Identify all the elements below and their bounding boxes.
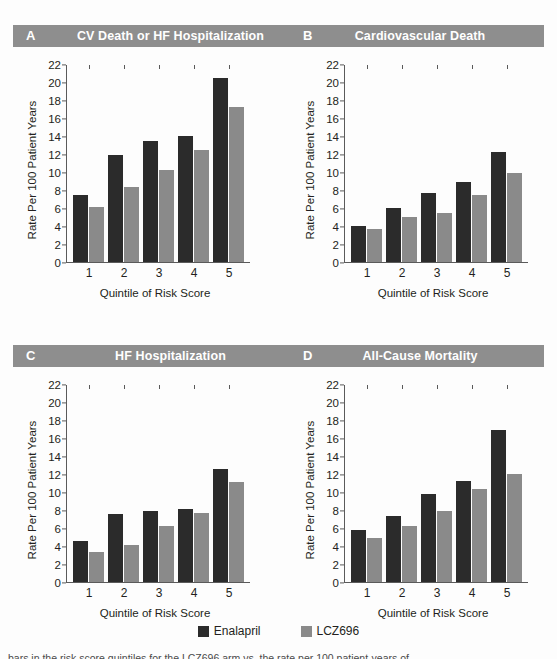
bar-group-d-q1: 1 — [351, 385, 383, 582]
x-tick-mark-d-q1 — [367, 385, 368, 389]
x-tick-mark-c-q1 — [89, 385, 90, 389]
bar-b-enalapril-q5 — [491, 152, 506, 262]
bar-d-lcz696-q5 — [507, 474, 522, 581]
chart-panel-c: Rate Per 100 Patient Years02468101214161… — [0, 375, 278, 645]
bar-d-lcz696-q4 — [472, 489, 487, 582]
plot-area-b: 024681012141618202212345 — [344, 65, 526, 263]
y-tick-mark-b-10 — [340, 172, 344, 173]
bar-a-lcz696-q2 — [124, 187, 139, 262]
x-tick-mark-b-q4 — [472, 65, 473, 69]
y-axis-label-d: Rate Per 100 Patient Years — [304, 265, 316, 415]
bar-b-lcz696-q1 — [367, 229, 382, 262]
y-tick-mark-b-8 — [340, 190, 344, 191]
bar-c-enalapril-q1 — [73, 541, 88, 581]
plot-area-a: 024681012141618202212345 — [66, 65, 248, 263]
y-tick-mark-b-22 — [340, 64, 344, 65]
y-tick-mark-a-20 — [62, 82, 66, 83]
bar-a-enalapril-q3 — [143, 141, 158, 262]
y-tick-mark-b-6 — [340, 208, 344, 209]
y-tick-mark-b-16 — [340, 118, 344, 119]
y-tick-mark-d-16 — [340, 438, 344, 439]
y-tick-mark-b-12 — [340, 154, 344, 155]
y-axis-label-a: Rate Per 100 Patient Years — [26, 0, 38, 95]
bar-d-lcz696-q1 — [367, 538, 382, 582]
x-tick-label-a-q1: 1 — [73, 262, 105, 280]
x-tick-label-a-q4: 4 — [178, 262, 210, 280]
x-tick-label-b-q2: 2 — [386, 262, 418, 280]
x-axis-label-a: Quintile of Risk Score — [50, 287, 260, 299]
x-tick-label-b-q1: 1 — [351, 262, 383, 280]
legend-swatch-icon-lcz696 — [301, 626, 312, 637]
y-tick-mark-d-6 — [340, 528, 344, 529]
x-axis-label-b: Quintile of Risk Score — [328, 287, 538, 299]
x-tick-label-d-q2: 2 — [386, 582, 418, 600]
x-tick-label-c-q2: 2 — [108, 582, 140, 600]
y-tick-mark-c-22 — [62, 384, 66, 385]
bar-group-a-q2: 2 — [108, 65, 140, 262]
legend-label-enalapril: Enalapril — [214, 624, 261, 638]
x-tick-mark-a-q1 — [89, 65, 90, 69]
y-tick-mark-a-4 — [62, 226, 66, 227]
legend-item-enalapril: Enalapril — [198, 624, 261, 638]
panel-header-bar-row1: A CV Death or HF Hospitalization B Cardi… — [13, 25, 544, 47]
x-tick-label-b-q3: 3 — [421, 262, 453, 280]
legend-swatch-icon-enalapril — [198, 626, 209, 637]
bar-group-c-q1: 1 — [73, 385, 105, 582]
y-tick-mark-c-6 — [62, 528, 66, 529]
bar-group-b-q4: 4 — [456, 65, 488, 262]
y-tick-mark-d-18 — [340, 420, 344, 421]
y-axis-label-c: Rate Per 100 Patient Years — [26, 265, 38, 415]
bar-group-b-q5: 5 — [491, 65, 523, 262]
y-tick-mark-a-0 — [62, 262, 66, 263]
bar-group-a-q5: 5 — [213, 65, 245, 262]
x-tick-mark-a-q5 — [229, 65, 230, 69]
y-tick-mark-c-12 — [62, 474, 66, 475]
x-tick-mark-b-q3 — [437, 65, 438, 69]
y-tick-mark-a-16 — [62, 118, 66, 119]
y-tick-mark-c-8 — [62, 510, 66, 511]
y-tick-mark-c-0 — [62, 582, 66, 583]
y-tick-mark-d-4 — [340, 546, 344, 547]
bar-d-enalapril-q2 — [386, 516, 401, 581]
y-tick-mark-c-4 — [62, 546, 66, 547]
bar-a-lcz696-q3 — [159, 170, 174, 262]
bar-group-d-q5: 5 — [491, 385, 523, 582]
x-tick-label-c-q4: 4 — [178, 582, 210, 600]
x-tick-mark-c-q5 — [229, 385, 230, 389]
y-axis-label-b: Rate Per 100 Patient Years — [304, 0, 316, 95]
bar-a-lcz696-q5 — [229, 107, 244, 262]
chart-panel-a: Rate Per 100 Patient Years02468101214161… — [0, 55, 278, 325]
y-tick-mark-d-0 — [340, 582, 344, 583]
legend-label-lcz696: LCZ696 — [317, 624, 360, 638]
x-tick-mark-b-q5 — [507, 65, 508, 69]
bar-c-lcz696-q5 — [229, 482, 244, 582]
bar-d-lcz696-q2 — [402, 526, 417, 581]
bar-d-lcz696-q3 — [437, 511, 452, 582]
bar-group-c-q3: 3 — [143, 385, 175, 582]
x-tick-mark-d-q3 — [437, 385, 438, 389]
y-tick-mark-c-2 — [62, 564, 66, 565]
bar-c-enalapril-q3 — [143, 511, 158, 582]
y-tick-mark-d-20 — [340, 402, 344, 403]
y-tick-mark-a-8 — [62, 190, 66, 191]
y-tick-mark-d-10 — [340, 492, 344, 493]
chart-panel-d: Rate Per 100 Patient Years02468101214161… — [278, 375, 556, 645]
x-axis-label-d: Quintile of Risk Score — [328, 607, 538, 619]
y-tick-mark-c-18 — [62, 420, 66, 421]
bar-c-lcz696-q4 — [194, 513, 209, 582]
bar-c-enalapril-q2 — [108, 514, 123, 582]
x-tick-mark-c-q4 — [194, 385, 195, 389]
bar-b-enalapril-q4 — [456, 182, 471, 262]
x-tick-label-d-q4: 4 — [456, 582, 488, 600]
bar-group-b-q3: 3 — [421, 65, 453, 262]
bar-group-a-q1: 1 — [73, 65, 105, 262]
x-tick-label-c-q5: 5 — [213, 582, 245, 600]
bar-group-d-q4: 4 — [456, 385, 488, 582]
y-tick-mark-a-18 — [62, 100, 66, 101]
legend-item-lcz696: LCZ696 — [301, 624, 360, 638]
bar-a-lcz696-q4 — [194, 150, 209, 262]
y-tick-mark-d-14 — [340, 456, 344, 457]
y-tick-mark-a-10 — [62, 172, 66, 173]
y-tick-mark-c-14 — [62, 456, 66, 457]
y-tick-mark-b-4 — [340, 226, 344, 227]
